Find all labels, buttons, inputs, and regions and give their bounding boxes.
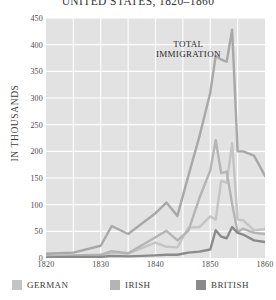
legend-label-irish: IRISH xyxy=(125,280,151,290)
legend-item-british[interactable]: BRITISH xyxy=(196,280,249,290)
legend-item-irish[interactable]: IRISH xyxy=(110,280,151,290)
y-tick-150: 150 xyxy=(3,174,43,183)
x-tick-1860: 1860 xyxy=(245,260,276,269)
annotation-line-2: IMMIGRATION xyxy=(143,49,233,59)
legend-label-british: BRITISH xyxy=(211,280,249,290)
y-tick-350: 350 xyxy=(3,67,43,76)
legend-swatch-british xyxy=(196,280,206,290)
legend-swatch-irish xyxy=(110,280,120,290)
y-tick-450: 450 xyxy=(3,14,43,23)
legend-item-german[interactable]: GERMAN xyxy=(12,280,68,290)
y-tick-50: 50 xyxy=(3,227,43,236)
x-axis-tick-labels: 18201830184018501860 xyxy=(46,260,265,274)
x-tick-1840: 1840 xyxy=(136,260,176,269)
legend-swatch-german xyxy=(12,280,22,290)
y-axis-tick-labels: 050100150200250300350400450 xyxy=(0,18,43,258)
x-tick-1850: 1850 xyxy=(190,260,230,269)
y-tick-200: 200 xyxy=(3,147,43,156)
legend-label-german: GERMAN xyxy=(27,280,68,290)
total-immigration-annotation: TOTAL IMMIGRATION xyxy=(143,39,233,60)
y-tick-100: 100 xyxy=(3,200,43,209)
x-tick-1830: 1830 xyxy=(81,260,121,269)
chart-title: UNITED STATES, 1820–1860 xyxy=(0,0,276,7)
chart-legend: GERMANIRISHBRITISH xyxy=(0,280,276,298)
y-tick-250: 250 xyxy=(3,120,43,129)
immigration-line-chart: UNITED STATES, 1820–1860 IN THOUSANDS 05… xyxy=(0,0,276,300)
y-tick-300: 300 xyxy=(3,94,43,103)
x-tick-1820: 1820 xyxy=(26,260,66,269)
y-tick-400: 400 xyxy=(3,40,43,49)
annotation-line-1: TOTAL xyxy=(143,39,233,49)
